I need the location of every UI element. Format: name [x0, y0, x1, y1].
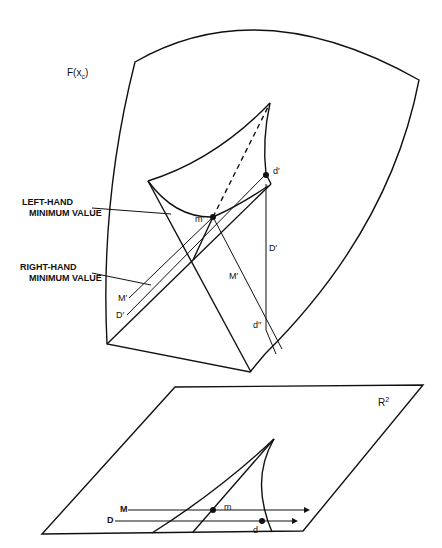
label-D-prime-vertical: D′ [269, 243, 277, 253]
surface-label-close: ) [85, 67, 88, 78]
label-d-prime: d′ [273, 166, 280, 176]
dashed-fold-line [213, 103, 270, 217]
plane-R2 [42, 385, 423, 534]
right-hand-label-line1: RIGHT-HAND [20, 262, 102, 273]
label-d-double-prime: d′′ [253, 320, 261, 330]
plane-cusp-right-curve [261, 439, 274, 532]
label-m: m [224, 502, 232, 512]
right-hand-label-line2: MINIMUM VALUE [20, 273, 102, 284]
cusp-lower-right-curve [213, 186, 268, 217]
left-hand-label-line2: MINIMUM VALUE [22, 208, 102, 219]
point-d [259, 518, 265, 524]
plane-cusp-left-curve [152, 439, 274, 533]
point-m [210, 507, 216, 513]
label-m-prime: m′ [195, 214, 204, 224]
label-D: D [107, 515, 114, 525]
point-m-prime [210, 214, 216, 220]
line-D-prime [127, 174, 266, 315]
line-M-prime-projection [213, 217, 282, 349]
arrow-D-head [292, 518, 298, 524]
left-hand-pointer [92, 208, 171, 214]
left-hand-label: LEFT-HAND MINIMUM VALUE [22, 197, 102, 219]
plane-label: R2 [378, 396, 389, 408]
surface-label: F(xc) [67, 67, 88, 80]
surface-outer-boundary [106, 30, 419, 372]
label-D-prime-left: D′ [116, 310, 124, 320]
line-M-prime [129, 217, 213, 298]
surface-label-text: F(x [67, 67, 81, 78]
label-d: d [253, 525, 258, 535]
label-M: M [120, 504, 128, 514]
cusp-right-curve [265, 103, 270, 174]
right-hand-label: RIGHT-HAND MINIMUM VALUE [20, 262, 102, 284]
arrow-M-head [304, 507, 310, 513]
strip-bottom-edge [107, 184, 271, 344]
cusp-upper-left-curve [148, 103, 270, 181]
plane-label-sup: 2 [385, 396, 389, 403]
point-d-prime [263, 172, 269, 178]
label-M-prime-left: M′ [118, 293, 127, 303]
label-M-prime-mid: M′ [229, 271, 238, 281]
left-hand-label-line1: LEFT-HAND [22, 197, 102, 208]
